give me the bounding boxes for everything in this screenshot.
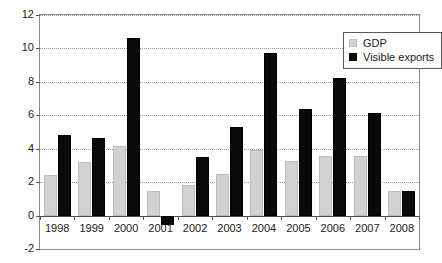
x-axis-tick-label: 1998 <box>45 222 69 234</box>
x-tickmark <box>281 216 282 220</box>
bar-visible-exports-1999 <box>92 138 105 216</box>
x-tickmark <box>143 216 144 220</box>
legend-swatch-visible-exports-icon <box>349 53 357 61</box>
x-tickmark <box>247 216 248 220</box>
chart-legend: GDP Visible exports <box>343 32 442 69</box>
x-axis-tick-label: 2002 <box>183 222 207 234</box>
x-axis-tick-label: 2000 <box>114 222 138 234</box>
bar-visible-exports-2008 <box>402 191 415 215</box>
y-axis-tick-label: 10 <box>0 41 34 53</box>
x-tickmark <box>385 216 386 220</box>
bar-gdp-2007 <box>354 156 367 215</box>
x-tickmark <box>109 216 110 220</box>
y-axis-tick-label: 8 <box>0 75 34 87</box>
y-tickmark--2 <box>36 249 40 250</box>
bar-gdp-2001 <box>147 191 160 215</box>
bar-gdp-2004 <box>250 150 263 215</box>
bar-gdp-2000 <box>113 146 126 215</box>
y-axis-tick-label: 4 <box>0 142 34 154</box>
bar-visible-exports-2005 <box>299 109 312 216</box>
x-tickmark <box>419 216 420 220</box>
x-tickmark <box>178 216 179 220</box>
bar-gdp-2003 <box>216 174 229 216</box>
x-axis-tick-label: 2004 <box>252 222 276 234</box>
legend-item-visible-exports: Visible exports <box>349 50 434 64</box>
bar-gdp-2008 <box>388 191 401 216</box>
x-tickmark <box>40 216 41 220</box>
bar-gdp-2006 <box>319 156 332 215</box>
x-axis-tick-label: 2005 <box>286 222 310 234</box>
y-axis-tick-label: -2 <box>0 242 34 254</box>
bar-visible-exports-1998 <box>58 135 71 215</box>
bar-visible-exports-2003 <box>230 127 243 216</box>
x-tickmark <box>74 216 75 220</box>
x-axis-tick-label: 2001 <box>148 222 172 234</box>
x-axis-tick-label: 2003 <box>217 222 241 234</box>
bar-gdp-1999 <box>78 162 91 215</box>
bar-visible-exports-2000 <box>127 38 140 216</box>
plot-area: GDP Visible exports <box>39 14 420 250</box>
bar-visible-exports-2004 <box>264 53 277 216</box>
legend-item-gdp: GDP <box>349 36 434 50</box>
legend-label-gdp: GDP <box>363 37 387 49</box>
bar-gdp-1998 <box>44 175 57 216</box>
y-axis-tick-label: 2 <box>0 175 34 187</box>
bar-visible-exports-2006 <box>333 78 346 216</box>
x-axis-tick-label: 2008 <box>390 222 414 234</box>
bar-gdp-2002 <box>182 185 195 216</box>
bar-visible-exports-2007 <box>368 113 381 216</box>
x-tickmark <box>350 216 351 220</box>
x-tickmark <box>212 216 213 220</box>
x-axis-tick-label: 1999 <box>79 222 103 234</box>
legend-swatch-gdp-icon <box>349 39 357 47</box>
x-tickmark <box>316 216 317 220</box>
bar-visible-exports-2002 <box>196 157 209 216</box>
x-axis-tick-label: 2007 <box>355 222 379 234</box>
legend-label-visible-exports: Visible exports <box>363 51 434 63</box>
y-axis-tick-label: 0 <box>0 209 34 221</box>
x-axis-tick-label: 2006 <box>321 222 345 234</box>
gridline--2 <box>40 249 419 250</box>
y-axis-tick-label: 6 <box>0 108 34 120</box>
bar-gdp-2005 <box>285 161 298 215</box>
y-axis-tick-label: 12 <box>0 8 34 20</box>
